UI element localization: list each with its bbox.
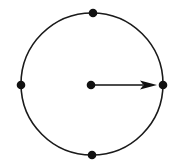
top-dot <box>89 9 98 18</box>
left-dot <box>17 81 26 90</box>
right-dot <box>159 81 168 90</box>
center-dot <box>87 81 96 90</box>
circle-radius-diagram <box>0 0 175 168</box>
bottom-dot <box>88 151 97 160</box>
figure-canvas <box>0 0 175 168</box>
